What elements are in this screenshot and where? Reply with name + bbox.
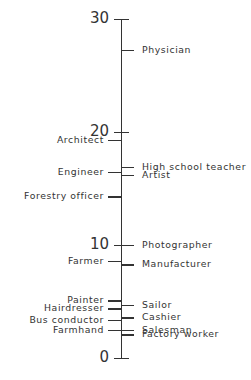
vertical-axis bbox=[121, 19, 122, 358]
right-item-label: Factory worker bbox=[142, 329, 219, 339]
right-item-tick bbox=[121, 175, 134, 176]
right-item-label: Sailor bbox=[142, 300, 172, 310]
axis-tick-label: 30 bbox=[79, 11, 109, 26]
left-item-tick bbox=[108, 172, 121, 173]
right-item-tick bbox=[121, 50, 134, 51]
left-item-tick bbox=[108, 300, 121, 301]
right-item-label: Cashier bbox=[142, 312, 181, 322]
left-item-label: Hairdresser bbox=[44, 303, 104, 313]
left-item-label: Engineer bbox=[58, 167, 104, 177]
left-item-tick bbox=[108, 140, 121, 141]
right-item-tick bbox=[121, 305, 134, 306]
right-item-tick bbox=[121, 245, 134, 246]
left-item-tick bbox=[108, 330, 121, 331]
right-item-tick bbox=[121, 334, 134, 335]
right-item-tick bbox=[121, 264, 134, 265]
axis-major-tick bbox=[114, 132, 129, 133]
right-item-label: Physician bbox=[142, 45, 191, 55]
axis-tick-label: 0 bbox=[79, 350, 109, 365]
right-item-label: Artist bbox=[142, 170, 171, 180]
axis-major-tick bbox=[114, 19, 129, 20]
left-item-label: Farmer bbox=[68, 256, 104, 266]
left-item-label: Farmhand bbox=[53, 325, 104, 335]
left-item-label: Forestry officer bbox=[24, 191, 104, 201]
right-item-label: Manufacturer bbox=[142, 259, 211, 269]
left-item-label: Architect bbox=[57, 135, 104, 145]
left-item-tick bbox=[108, 261, 121, 262]
axis-tick-label: 10 bbox=[79, 237, 109, 252]
left-item-tick bbox=[108, 308, 121, 309]
axis-major-tick bbox=[114, 358, 129, 359]
left-item-tick bbox=[108, 196, 121, 197]
right-item-tick bbox=[121, 330, 134, 331]
left-item-tick bbox=[108, 320, 121, 321]
right-item-label: Photographer bbox=[142, 240, 212, 250]
occupation-scale-chart: 0102030ArchitectEngineerForestry officer… bbox=[0, 0, 251, 380]
right-item-tick bbox=[121, 167, 134, 168]
right-item-tick bbox=[121, 317, 134, 318]
